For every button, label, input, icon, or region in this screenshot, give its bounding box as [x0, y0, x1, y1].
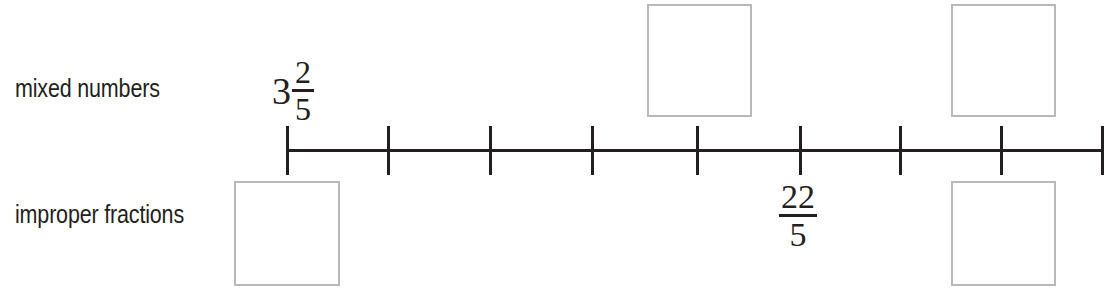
number-line-tick-2	[387, 126, 390, 175]
answer-box-mixed-number-tick5[interactable]	[647, 4, 752, 117]
answer-box-improper-fraction-tick1[interactable]	[234, 181, 340, 286]
fraction-part: 22 5	[779, 180, 817, 253]
number-line-tick-5	[696, 126, 699, 175]
improper-fraction-label-22-5: 22 5	[779, 180, 817, 253]
number-line-tick-8	[1000, 126, 1003, 175]
number-line-tick-7	[899, 126, 902, 175]
fraction-denominator: 5	[293, 92, 313, 126]
number-line-tick-4	[591, 126, 594, 175]
number-line-worksheet: mixed numbers improper fractions 3 2 5 2…	[0, 0, 1109, 291]
number-line-tick-9	[1101, 126, 1104, 175]
whole-number-part: 3	[272, 72, 292, 110]
fraction-numerator: 2	[293, 57, 313, 89]
mixed-number-label-3-2-5: 3 2 5	[272, 57, 314, 126]
answer-box-mixed-number-tick8[interactable]	[951, 4, 1056, 117]
answer-box-improper-fraction-tick8[interactable]	[951, 181, 1056, 286]
fraction-part: 2 5	[292, 57, 314, 126]
number-line-tick-1	[286, 126, 289, 175]
row-label-improper-fractions: improper fractions	[15, 200, 184, 229]
number-line-tick-3	[489, 126, 492, 175]
fraction-denominator: 5	[788, 217, 809, 253]
number-line-tick-6	[799, 126, 802, 175]
number-line-axis	[286, 149, 1103, 152]
row-label-mixed-numbers: mixed numbers	[15, 74, 160, 103]
fraction-numerator: 22	[779, 180, 817, 214]
